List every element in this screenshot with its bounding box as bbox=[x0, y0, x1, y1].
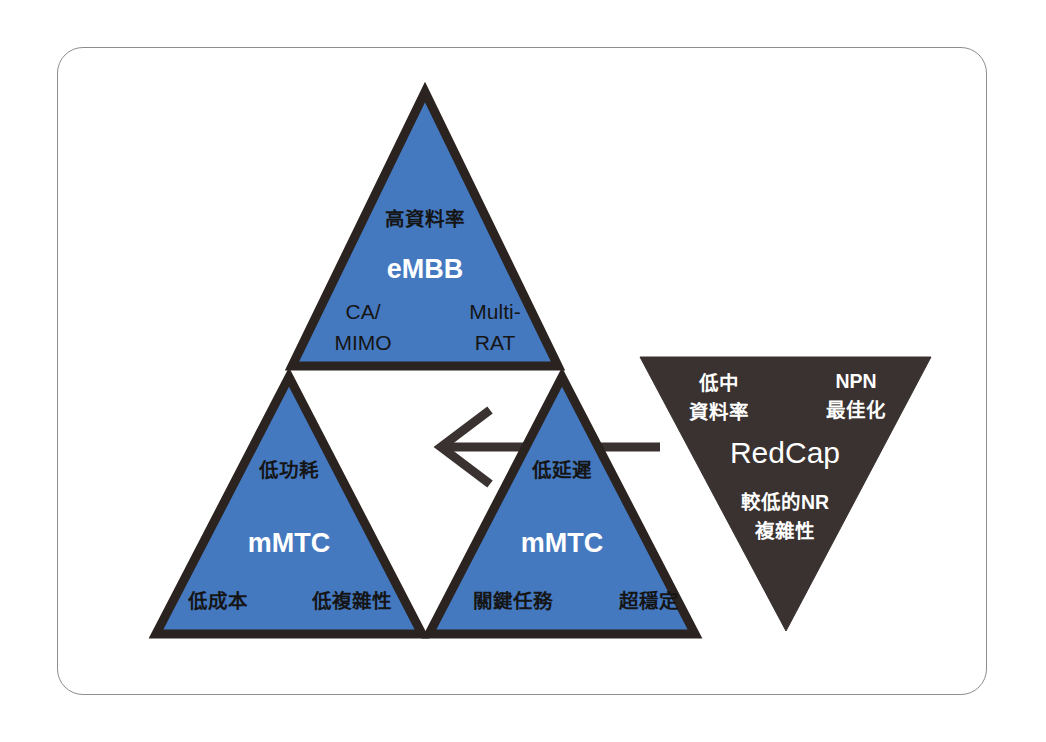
mmtc-left-bottom-right-label: 低複雜性 bbox=[311, 590, 392, 612]
redcap-top-left-label-line1: 低中 bbox=[698, 372, 739, 394]
triangle-mmtc-right[interactable]: 低延遲 mMTC 關鍵任務 超穩定 bbox=[429, 377, 695, 634]
redcap-bottom-label-line1: 較低的NR bbox=[741, 491, 829, 513]
mmtc-right-bottom-right-label: 超穩定 bbox=[618, 590, 679, 612]
embb-bottom-left-label-line2: MIMO bbox=[334, 331, 391, 354]
embb-top-label: 高資料率 bbox=[385, 208, 465, 230]
embb-bottom-right-label-line2: RAT bbox=[475, 331, 516, 354]
mmtc-right-top-label: 低延遲 bbox=[531, 459, 592, 481]
mmtc-left-bottom-left-label: 低成本 bbox=[187, 590, 248, 612]
redcap-top-left-label-line2: 資料率 bbox=[689, 401, 749, 423]
triangle-redcap[interactable]: 低中 資料率 NPN 最佳化 RedCap 較低的NR 複雜性 bbox=[640, 357, 931, 631]
mmtc-right-center-label: mMTC bbox=[521, 528, 604, 558]
mmtc-left-top-label: 低功耗 bbox=[258, 459, 319, 481]
redcap-bottom-label-line2: 複雜性 bbox=[754, 520, 815, 542]
mmtc-right-bottom-left-label: 關鍵任務 bbox=[473, 590, 553, 612]
triangle-mmtc-left[interactable]: 低功耗 mMTC 低成本 低複雜性 bbox=[156, 377, 422, 634]
redcap-top-right-label-line1: NPN bbox=[835, 370, 876, 392]
embb-center-label: eMBB bbox=[387, 254, 464, 284]
redcap-center-label: RedCap bbox=[730, 436, 840, 469]
figure-container: 低中 資料率 NPN 最佳化 RedCap 較低的NR 複雜性 高資料率 eMB… bbox=[0, 0, 1046, 742]
redcap-top-right-label-line2: 最佳化 bbox=[826, 399, 886, 421]
usage-scenario-triangle-diagram: 低中 資料率 NPN 最佳化 RedCap 較低的NR 複雜性 高資料率 eMB… bbox=[0, 0, 1046, 742]
embb-bottom-left-label-line1: CA/ bbox=[345, 300, 380, 323]
embb-bottom-right-label-line1: Multi- bbox=[469, 300, 520, 323]
mmtc-left-center-label: mMTC bbox=[248, 528, 331, 558]
triangle-embb[interactable]: 高資料率 eMBB CA/ MIMO Multi- RAT bbox=[292, 92, 558, 366]
diagram-page: 低中 資料率 NPN 最佳化 RedCap 較低的NR 複雜性 高資料率 eMB… bbox=[0, 0, 1046, 742]
